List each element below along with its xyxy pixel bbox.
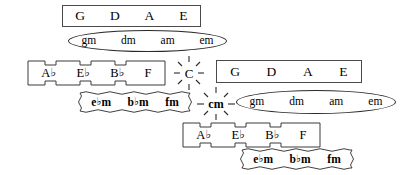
key-label: A bbox=[303, 65, 313, 79]
major-region-rect-right[interactable]: G D A E bbox=[216, 60, 362, 83]
minor-region-ellipse-right[interactable]: gm dm am em bbox=[236, 90, 396, 114]
key-label: E bbox=[339, 65, 347, 79]
major-region-castellated-bottom[interactable]: A♭ E♭ B♭ F bbox=[182, 122, 321, 148]
key-label: cm bbox=[196, 86, 236, 122]
key-label: B♭ bbox=[110, 67, 124, 80]
minor-region-ellipse-top[interactable]: gm dm am em bbox=[68, 30, 227, 52]
key-label: A bbox=[145, 9, 155, 23]
key-label: D bbox=[110, 9, 120, 23]
key-label: G bbox=[75, 9, 85, 23]
major-region-rect-top[interactable]: G D A E bbox=[62, 5, 201, 27]
key-label: G bbox=[230, 65, 240, 79]
key-label: gm bbox=[81, 35, 96, 47]
diagram-canvas: G D A E gm dm am em A♭ E♭ B♭ F bbox=[0, 0, 416, 175]
key-label: A♭ bbox=[196, 129, 211, 142]
key-label: em bbox=[368, 96, 382, 108]
key-label: am bbox=[329, 96, 343, 108]
key-label: em bbox=[199, 35, 213, 47]
key-label: e♭m bbox=[253, 154, 273, 166]
key-label: A♭ bbox=[41, 67, 56, 80]
minor-region-wavy-bottom[interactable]: e♭m b♭m fm bbox=[236, 148, 358, 172]
key-label: gm bbox=[250, 96, 265, 108]
key-label: fm bbox=[327, 154, 341, 166]
key-label: fm bbox=[165, 97, 179, 109]
key-label: dm bbox=[289, 96, 304, 108]
key-label: dm bbox=[121, 35, 136, 47]
key-label: E bbox=[179, 9, 187, 23]
tonic-node-minor-cm[interactable]: cm bbox=[196, 86, 236, 122]
key-label: b♭m bbox=[128, 97, 149, 109]
key-label: b♭m bbox=[290, 154, 311, 166]
key-label: D bbox=[267, 65, 277, 79]
key-label: E♭ bbox=[76, 67, 89, 80]
key-label: B♭ bbox=[265, 129, 279, 142]
major-region-castellated-left[interactable]: A♭ E♭ B♭ F bbox=[27, 60, 166, 86]
key-label: E♭ bbox=[231, 129, 244, 142]
minor-region-wavy-left[interactable]: e♭m b♭m fm bbox=[74, 91, 196, 115]
key-label: e♭m bbox=[91, 97, 111, 109]
key-label: F bbox=[145, 67, 152, 80]
key-label: am bbox=[161, 35, 175, 47]
key-label: F bbox=[300, 129, 307, 142]
